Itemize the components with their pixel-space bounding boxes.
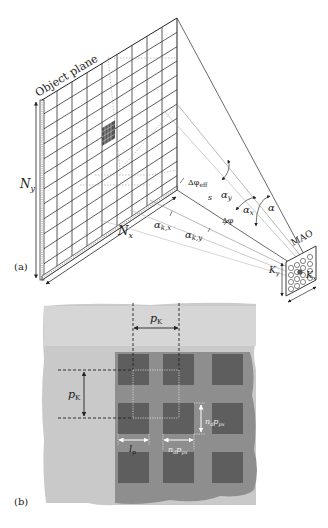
ky-label: Ky bbox=[268, 265, 280, 277]
delta-phi-eff-label: Δφeff bbox=[188, 178, 208, 188]
alpha-ky-label: αk,y bbox=[185, 229, 203, 242]
alpha-label: α bbox=[268, 202, 275, 213]
alpha-x-label: αx bbox=[243, 204, 254, 217]
nx-label: Nx bbox=[117, 224, 134, 240]
edge-strip-left bbox=[40, 100, 44, 280]
s-label: s bbox=[208, 193, 212, 202]
ny-label: Ny bbox=[19, 177, 36, 193]
object-plane-grid bbox=[42, 18, 177, 280]
panel-a-label: (a) bbox=[14, 261, 28, 272]
alpha-kx-label: αk,x bbox=[154, 219, 171, 232]
diagram-canvas: Object plane Ny Nx (a) Δφeff s αy αx α Δ… bbox=[0, 0, 328, 528]
panel-b: pK pK lp ndppx ndppx (b) bbox=[14, 303, 257, 507]
alpha-y-label: αy bbox=[221, 189, 233, 202]
panel-a: Object plane Ny Nx (a) Δφeff s αy αx α Δ… bbox=[14, 18, 317, 302]
mao-label: MAO bbox=[289, 228, 314, 248]
pixel-squares bbox=[118, 354, 243, 483]
panel-b-label: (b) bbox=[14, 496, 28, 507]
delta-phi-label: Δφ bbox=[222, 216, 234, 225]
